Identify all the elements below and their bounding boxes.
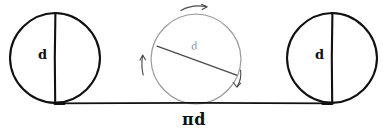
rotation-arrow-right-icon	[233, 70, 241, 87]
rolling-circle-diagram: d d d	[0, 0, 388, 131]
right-circle-diameter-label: d	[315, 47, 324, 62]
left-circle-diameter-label: d	[38, 47, 47, 62]
rotation-arrow-top-icon	[181, 4, 207, 10]
baseline	[55, 103, 332, 104]
middle-circle-group: d	[140, 4, 241, 104]
middle-circle	[151, 14, 241, 104]
middle-circle-diameter-label: d	[190, 40, 199, 52]
right-circle-diameter-line	[332, 13, 333, 103]
rotation-arrow-left-icon	[140, 55, 145, 75]
left-circle-diameter-line	[55, 13, 56, 103]
baseline-length-label: πd	[182, 110, 206, 129]
diagram-canvas: d d d	[0, 0, 388, 131]
left-circle-group: d	[10, 13, 100, 103]
right-circle-group: d	[287, 13, 377, 103]
